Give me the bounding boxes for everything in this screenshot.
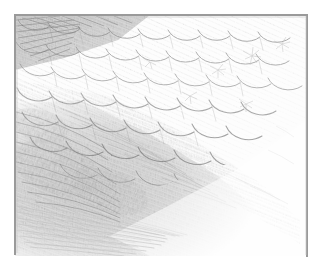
pencil-drawing-canvas: Fish scales pencil study graphite pencil…: [0, 0, 334, 266]
fish-scale-drawing: [0, 0, 334, 266]
